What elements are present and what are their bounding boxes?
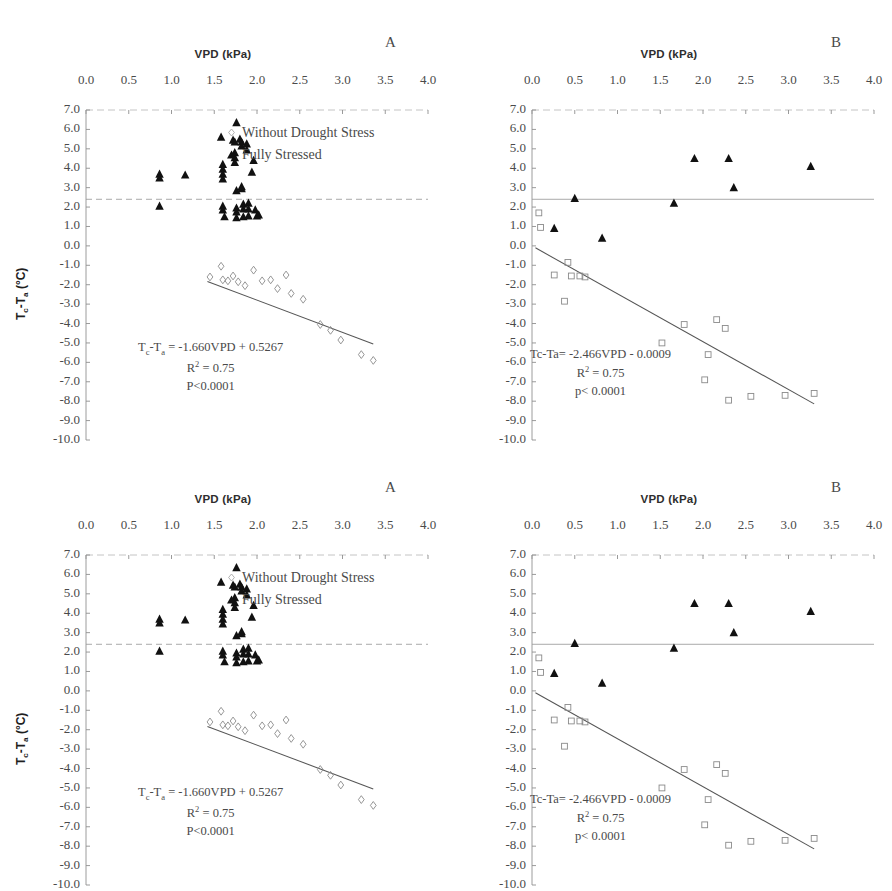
data-point-filled-triangle	[724, 599, 732, 607]
data-point-filled-triangle	[670, 644, 678, 652]
data-point-open-square	[726, 397, 732, 403]
p-value-label: p< 0.0001	[530, 827, 671, 845]
legend-label: Without Drought Stress	[242, 567, 374, 589]
data-point-open-diamond	[218, 262, 224, 270]
data-point-open-diamond	[251, 266, 257, 274]
data-point-open-square	[748, 393, 754, 399]
legend-marker-open-diamond-icon	[226, 572, 237, 583]
legend-marker-open-diamond-icon	[226, 127, 237, 138]
data-point-open-diamond	[207, 718, 213, 726]
legend-marker-filled-triangle-icon	[226, 594, 237, 605]
chart-panel-top-right: BVPD (kPa)0.00.51.01.52.02.53.03.54.07.0…	[446, 0, 892, 445]
data-point-filled-triangle	[550, 669, 558, 677]
chart-panel-bottom-right: BVPD (kPa)0.00.51.01.52.02.53.03.54.07.0…	[446, 445, 892, 890]
data-point-open-diamond	[338, 781, 344, 789]
data-point-open-square	[562, 298, 568, 304]
legend-label: Without Drought Stress	[242, 122, 374, 144]
data-point-filled-triangle	[806, 162, 814, 170]
data-point-open-square	[705, 797, 711, 803]
data-point-open-diamond	[288, 735, 294, 743]
data-point-open-square	[568, 718, 574, 724]
series-filled-triangle	[550, 599, 815, 687]
regression-annotation: Tc-Ta = -1.660VPD + 0.5267R2 = 0.75P<0.0…	[138, 338, 283, 395]
data-point-open-square	[722, 770, 728, 776]
data-point-open-square	[782, 392, 788, 398]
data-point-open-diamond	[268, 276, 274, 284]
legend-item: Without Drought Stress	[226, 122, 374, 144]
data-point-open-square	[538, 670, 544, 676]
p-value-label: p< 0.0001	[530, 382, 671, 400]
series-filled-triangle	[550, 154, 815, 242]
data-point-filled-triangle	[690, 154, 698, 162]
data-point-filled-triangle	[550, 224, 558, 232]
data-point-filled-triangle	[217, 578, 225, 586]
data-point-open-square	[782, 837, 788, 843]
data-point-open-square	[536, 655, 542, 661]
legend-item: Fully Stressed	[226, 589, 374, 611]
data-point-filled-triangle	[806, 607, 814, 615]
data-point-filled-triangle	[571, 194, 579, 202]
data-point-open-diamond	[268, 721, 274, 729]
data-point-open-square	[714, 762, 720, 768]
data-point-open-square	[562, 743, 568, 749]
data-point-open-square	[705, 352, 711, 358]
regression-equation: Tc-Ta = -1.660VPD + 0.5267	[138, 338, 283, 358]
data-point-open-square	[811, 836, 817, 842]
chart-panel-bottom-left: AVPD (kPa)0.00.51.01.52.02.53.03.54.07.0…	[0, 445, 446, 890]
data-point-filled-triangle	[730, 183, 738, 191]
data-point-open-diamond	[283, 716, 289, 724]
legend-label: Fully Stressed	[242, 144, 322, 166]
data-point-open-diamond	[370, 802, 376, 810]
data-point-filled-triangle	[181, 170, 189, 178]
data-point-open-diamond	[218, 707, 224, 715]
data-point-open-diamond	[235, 278, 241, 286]
data-point-open-diamond	[358, 796, 364, 804]
data-point-filled-triangle	[181, 615, 189, 623]
data-point-open-diamond	[220, 721, 226, 729]
data-point-filled-triangle	[598, 679, 606, 687]
chart-panel-top-left: AVPD (kPa)0.00.51.01.52.02.53.03.54.07.0…	[0, 0, 446, 445]
data-point-filled-triangle	[248, 168, 256, 176]
data-point-filled-triangle	[248, 613, 256, 621]
p-value-label: P<0.0001	[138, 377, 283, 395]
data-point-filled-triangle	[724, 154, 732, 162]
data-point-open-diamond	[288, 290, 294, 298]
data-point-open-diamond	[251, 711, 257, 719]
legend-item: Without Drought Stress	[226, 567, 374, 589]
chart-legend: Without Drought StressFully Stressed	[226, 122, 374, 165]
data-point-open-diamond	[242, 727, 248, 735]
data-point-filled-triangle	[217, 133, 225, 141]
data-point-open-diamond	[283, 271, 289, 279]
data-point-open-diamond	[207, 273, 213, 281]
data-point-open-diamond	[220, 276, 226, 284]
data-point-open-diamond	[275, 730, 281, 738]
data-point-open-square	[811, 391, 817, 397]
data-point-open-square	[702, 822, 708, 828]
data-point-open-square	[714, 317, 720, 323]
r-squared-label: R2 = 0.75	[138, 358, 283, 377]
data-point-filled-triangle	[598, 234, 606, 242]
data-point-open-square	[726, 842, 732, 848]
legend-marker-filled-triangle-icon	[226, 149, 237, 160]
data-point-open-square	[536, 210, 542, 216]
p-value-label: P<0.0001	[138, 822, 283, 840]
data-point-filled-triangle	[155, 201, 163, 209]
data-point-open-diamond	[259, 277, 265, 285]
data-point-open-diamond	[259, 722, 265, 730]
data-point-open-square	[551, 272, 557, 278]
data-point-open-diamond	[300, 740, 306, 748]
data-point-open-square	[748, 838, 754, 844]
data-point-open-square	[681, 322, 687, 328]
data-point-open-diamond	[358, 351, 364, 359]
data-point-open-diamond	[235, 723, 241, 731]
data-point-open-diamond	[338, 336, 344, 344]
data-point-filled-triangle	[571, 639, 579, 647]
regression-annotation: Tc-Ta = -1.660VPD + 0.5267R2 = 0.75P<0.0…	[138, 783, 283, 840]
data-point-open-diamond	[275, 285, 281, 293]
data-point-filled-triangle	[730, 628, 738, 636]
data-point-open-square	[681, 767, 687, 773]
regression-equation: Tc-Ta = -1.660VPD + 0.5267	[138, 783, 283, 803]
data-point-open-diamond	[230, 272, 236, 280]
r-squared-label: R2 = 0.75	[138, 803, 283, 822]
data-point-open-diamond	[370, 357, 376, 365]
